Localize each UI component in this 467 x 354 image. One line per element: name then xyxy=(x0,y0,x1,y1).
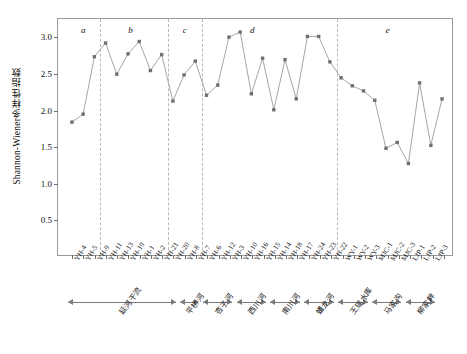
data-point xyxy=(194,59,197,62)
chart-root: Shannon-Wiener多样性指数 0.51.01.52.02.53.0ab… xyxy=(0,0,467,354)
region-separator xyxy=(202,19,203,255)
data-point xyxy=(295,97,298,100)
data-point xyxy=(70,120,73,123)
region-label-e: e xyxy=(386,25,390,35)
data-point xyxy=(362,89,365,92)
y-axis-tick xyxy=(54,37,58,38)
group-brackets: 延河干流平桥河杏子河西川河南川河蟠龙河王瑶水库马家沟柳家畔 xyxy=(57,302,453,354)
data-point xyxy=(440,97,443,100)
data-point xyxy=(261,57,264,60)
group-bracket-arrow-left xyxy=(180,299,185,305)
group-bracket-arrow-left xyxy=(237,299,242,305)
y-axis-tick-label: 1.5 xyxy=(41,142,52,152)
data-point xyxy=(373,99,376,102)
data-point xyxy=(283,58,286,61)
y-axis-tick xyxy=(54,111,58,112)
region-separator xyxy=(337,19,338,255)
data-point xyxy=(306,35,309,38)
data-point xyxy=(160,53,163,56)
y-axis-tick xyxy=(54,74,58,75)
region-label-a: a xyxy=(81,25,86,35)
data-point xyxy=(395,141,398,144)
data-point xyxy=(384,147,387,150)
data-point xyxy=(272,108,275,111)
data-point xyxy=(227,35,230,38)
data-point xyxy=(250,92,253,95)
data-point xyxy=(429,144,432,147)
region-label-b: b xyxy=(128,25,133,35)
group-bracket-arrow-left xyxy=(372,299,377,305)
region-label-c: c xyxy=(183,25,187,35)
data-point xyxy=(238,30,241,33)
group-bracket-arrow-left xyxy=(304,299,309,305)
group-bracket-arrow-left xyxy=(270,299,275,305)
group-bracket-arrow-left xyxy=(338,299,343,305)
y-axis-tick xyxy=(54,220,58,221)
y-axis-title: Shannon-Wiener多样性指数 xyxy=(6,0,28,252)
data-series xyxy=(58,19,452,255)
data-point xyxy=(149,69,152,72)
region-separator xyxy=(100,19,101,255)
data-point xyxy=(81,112,84,115)
data-point xyxy=(407,162,410,165)
series-line xyxy=(72,32,442,163)
region-label-d: d xyxy=(250,25,255,35)
y-axis-tick xyxy=(54,184,58,185)
data-point xyxy=(216,83,219,86)
data-point xyxy=(115,73,118,76)
data-point xyxy=(339,76,342,79)
data-point xyxy=(104,41,107,44)
data-point xyxy=(328,60,331,63)
data-point xyxy=(138,40,141,43)
data-point xyxy=(93,55,96,58)
y-axis-tick-label: 2.5 xyxy=(41,69,52,79)
data-point xyxy=(126,52,129,55)
group-bracket-arrow-right xyxy=(171,299,176,305)
y-axis-tick-label: 1.0 xyxy=(41,179,52,189)
data-point xyxy=(182,73,185,76)
group-bracket-arrow-left xyxy=(203,299,208,305)
data-point xyxy=(317,35,320,38)
region-separator xyxy=(168,19,169,255)
data-point xyxy=(205,94,208,97)
plot-inner: 0.51.01.52.02.53.0abcde xyxy=(58,19,452,255)
y-axis-tick-label: 3.0 xyxy=(41,32,52,42)
y-axis-title-text: Shannon-Wiener多样性指数 xyxy=(10,67,24,185)
data-point xyxy=(171,99,174,102)
group-bracket-arrow-left xyxy=(406,299,411,305)
y-axis-tick-label: 0.5 xyxy=(41,215,52,225)
data-point xyxy=(418,81,421,84)
y-axis-tick xyxy=(54,147,58,148)
plot-area: 0.51.01.52.02.53.0abcde xyxy=(57,18,453,256)
data-point xyxy=(351,84,354,87)
group-bracket-arrow-left xyxy=(68,299,73,305)
y-axis-tick-label: 2.0 xyxy=(41,106,52,116)
